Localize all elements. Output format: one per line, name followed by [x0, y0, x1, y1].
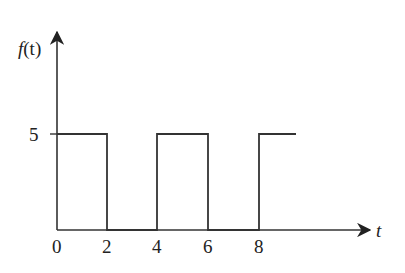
x-tick-label-8: 8 — [254, 236, 264, 257]
y-tick-label-5: 5 — [29, 124, 39, 145]
x-tick-label-6: 6 — [203, 236, 213, 257]
square-wave-chart: f(t) 5 0 2 4 6 8 t — [0, 0, 405, 273]
x-tick-label-4: 4 — [152, 236, 162, 257]
x-tick-label-2: 2 — [102, 236, 112, 257]
y-axis-label: f(t) — [18, 38, 41, 60]
x-axis-label: t — [376, 220, 382, 241]
square-wave-series — [57, 134, 296, 230]
x-tick-label-0: 0 — [52, 236, 62, 257]
